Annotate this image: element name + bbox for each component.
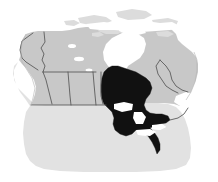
locator-map-figure: Map of Canada with Ontario highlighted G… bbox=[0, 0, 218, 182]
canada-map-svg: Map of Canada with Ontario highlighted G… bbox=[0, 0, 218, 182]
region-united-states bbox=[23, 103, 191, 172]
